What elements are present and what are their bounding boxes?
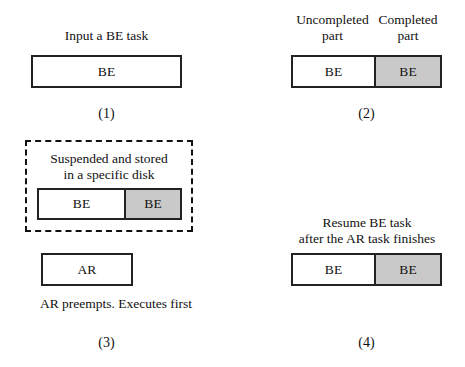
panel-2-label-uncompleted: Uncompleted part [291,12,374,44]
panel-4-number: (4) [291,335,442,351]
panel-2-segment-completed: BE [374,57,440,86]
panel-2-segment-labels: Uncompleted part Completed part [291,12,442,44]
panel-4-segment-completed: BE [374,255,440,284]
panel-3-segment-completed: BE [124,190,180,218]
panel-3-number: (3) [31,335,182,351]
panel-3-task-bar: BE BE [37,188,182,220]
panel-1-number: (1) [31,106,182,122]
panel-1-segment-be: BE [33,57,180,86]
panel-4-segment-uncompleted: BE [293,255,374,284]
panel-2-task-bar: BE BE [291,55,442,88]
figure-canvas: Input a BE task BE (1) Uncompleted part … [0,0,465,367]
panel-4-caption: Resume BE task after the AR task finishe… [263,215,465,247]
panel-2-label-completed: Completed part [374,12,442,44]
panel-3-dashed-caption: Suspended and stored in a specific disk [27,151,191,183]
panel-4-task-bar: BE BE [291,253,442,286]
panel-3-segment-ar: AR [43,255,131,284]
panel-3-segment-uncompleted: BE [39,190,124,218]
panel-2-number: (2) [291,106,442,122]
panel-3-ar-task-bar: AR [41,253,133,286]
panel-3-footer-caption: AR preempts. Executes first [4,296,228,312]
panel-1-caption: Input a BE task [31,28,182,44]
panel-1-task-bar: BE [31,55,182,88]
panel-2-segment-uncompleted: BE [293,57,374,86]
